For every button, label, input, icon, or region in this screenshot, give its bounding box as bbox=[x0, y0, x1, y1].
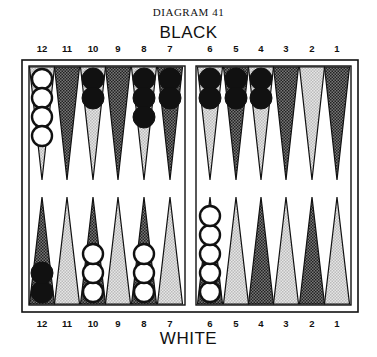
white-checker[interactable] bbox=[200, 263, 220, 283]
point-number: 7 bbox=[158, 318, 182, 329]
white-checker[interactable] bbox=[32, 126, 52, 146]
black-checker[interactable] bbox=[31, 262, 53, 284]
white-checker[interactable] bbox=[134, 263, 154, 283]
point-number: 5 bbox=[224, 318, 248, 329]
white-checker[interactable] bbox=[83, 263, 103, 283]
white-checker[interactable] bbox=[200, 282, 220, 302]
black-checker[interactable] bbox=[133, 106, 155, 128]
point-number: 8 bbox=[132, 318, 156, 329]
black-checker[interactable] bbox=[159, 87, 181, 109]
point-number: 12 bbox=[30, 318, 54, 329]
black-checker[interactable] bbox=[225, 87, 247, 109]
white-player-label: WHITE bbox=[0, 329, 377, 349]
point-number: 3 bbox=[274, 318, 298, 329]
black-checker[interactable] bbox=[250, 87, 272, 109]
black-checker[interactable] bbox=[199, 87, 221, 109]
point-number: 9 bbox=[106, 318, 130, 329]
point-number: 2 bbox=[300, 318, 324, 329]
white-checker[interactable] bbox=[83, 282, 103, 302]
white-checker[interactable] bbox=[32, 107, 52, 127]
point-number: 4 bbox=[249, 318, 273, 329]
white-checker[interactable] bbox=[200, 225, 220, 245]
white-checker[interactable] bbox=[134, 282, 154, 302]
white-checker[interactable] bbox=[200, 244, 220, 264]
white-checker[interactable] bbox=[32, 88, 52, 108]
backgammon-board bbox=[0, 0, 377, 357]
white-checker[interactable] bbox=[83, 244, 103, 264]
point-number: 11 bbox=[55, 318, 79, 329]
white-checker[interactable] bbox=[200, 206, 220, 226]
point-number: 1 bbox=[325, 318, 349, 329]
white-checker[interactable] bbox=[32, 69, 52, 89]
black-checker[interactable] bbox=[82, 87, 104, 109]
white-checker[interactable] bbox=[134, 244, 154, 264]
point-number: 10 bbox=[81, 318, 105, 329]
point-number: 6 bbox=[198, 318, 222, 329]
